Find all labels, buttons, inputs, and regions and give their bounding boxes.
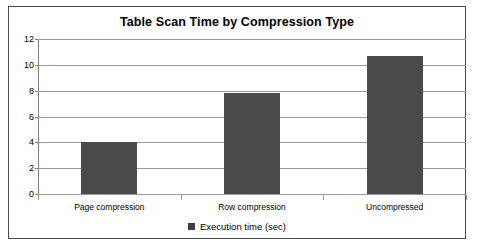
y-axis-tick-label: 6 <box>29 112 34 122</box>
gridline <box>38 194 466 195</box>
y-axis-tick-label: 0 <box>29 189 34 199</box>
legend-swatch-icon <box>188 223 195 230</box>
y-axis-tick-label: 4 <box>29 137 34 147</box>
x-axis-divider-tick <box>323 195 324 200</box>
y-axis-tick-label: 8 <box>29 86 34 96</box>
y-axis-tick-mark <box>35 142 38 143</box>
y-axis-tick-mark <box>35 91 38 92</box>
bar <box>81 142 137 194</box>
chart-legend: Execution time (sec) <box>9 221 465 232</box>
bar <box>224 93 280 194</box>
legend-label: Execution time (sec) <box>200 221 286 232</box>
x-axis-category-label: Page compression <box>74 202 144 212</box>
bar <box>367 56 423 194</box>
x-axis-divider-tick <box>181 195 182 200</box>
y-axis-tick-mark <box>35 65 38 66</box>
y-axis-tick-label: 2 <box>29 163 34 173</box>
x-axis-end-tick <box>466 195 467 200</box>
chart-title: Table Scan Time by Compression Type <box>9 15 465 29</box>
y-axis-tick-mark <box>35 39 38 40</box>
y-axis-tick-label: 12 <box>24 34 34 44</box>
plot-area: 024681012 <box>38 39 466 194</box>
x-axis-category-label: Row compression <box>218 202 286 212</box>
y-axis-tick-mark <box>35 168 38 169</box>
chart-frame: Table Scan Time by Compression Type 0246… <box>8 6 466 239</box>
gridline <box>38 39 466 40</box>
y-axis-tick-mark <box>35 117 38 118</box>
x-axis-end-tick <box>38 195 39 200</box>
x-axis-category-label: Uncompressed <box>366 202 423 212</box>
y-axis-tick-label: 10 <box>24 60 34 70</box>
